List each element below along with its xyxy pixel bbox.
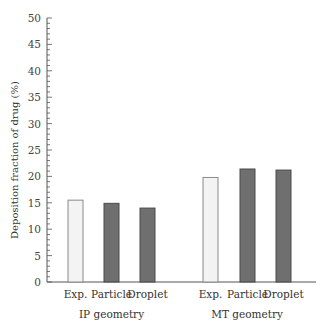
category-label: Exp. (64, 288, 88, 300)
group-label: IP geometry (79, 308, 144, 320)
bar-ip-particle (104, 203, 119, 282)
bar-mt-exp (203, 177, 218, 282)
y-tick-label: 20 (28, 170, 41, 182)
y-tick-label: 25 (28, 144, 41, 156)
group-label: MT geometry (211, 308, 283, 320)
category-label: Particle (227, 288, 268, 300)
category-label: Particle (91, 288, 132, 300)
bar-ip-droplet (140, 208, 155, 282)
y-tick-label: 10 (28, 223, 41, 235)
y-tick-label: 15 (28, 197, 41, 209)
y-tick-label: 5 (34, 250, 41, 262)
bar-ip-exp (68, 200, 83, 282)
bars (68, 169, 291, 282)
bar-mt-particle (240, 169, 255, 282)
category-labels: Exp.ParticleDropletIP geometryExp.Partic… (64, 288, 305, 320)
y-tick-label: 40 (28, 65, 41, 77)
category-label: Droplet (263, 288, 304, 300)
y-tick-label: 0 (34, 276, 41, 288)
y-axis: 05101520253035404550 (28, 12, 52, 288)
bar-chart: 05101520253035404550 Exp.ParticleDroplet… (0, 0, 323, 329)
y-tick-label: 50 (28, 12, 41, 24)
y-tick-label: 35 (28, 91, 41, 103)
y-tick-label: 45 (28, 38, 41, 50)
category-label: Exp. (199, 288, 223, 300)
y-axis-title: Deposition fraction of drug (%) (9, 81, 20, 239)
bar-mt-droplet (276, 170, 291, 282)
category-label: Droplet (127, 288, 168, 300)
y-tick-label: 30 (28, 118, 41, 130)
